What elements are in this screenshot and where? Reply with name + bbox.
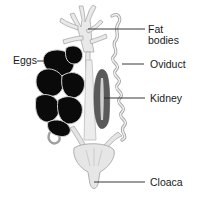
eggs-mass (35, 46, 84, 137)
label-fat-bodies: Fat bodies (148, 24, 179, 46)
oviduct-structure (112, 15, 126, 140)
kidney-structure (94, 69, 110, 128)
anatomy-diagram: Fat bodies Eggs Oviduct Kidney Cloaca (0, 0, 197, 200)
label-kidney: Kidney (150, 93, 182, 104)
label-eggs: Eggs (13, 55, 37, 66)
label-cloaca: Cloaca (150, 177, 183, 188)
label-oviduct: Oviduct (150, 59, 186, 70)
